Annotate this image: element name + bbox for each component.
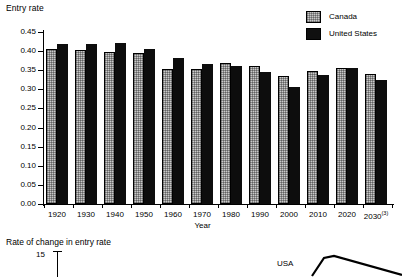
bar-united-states-2030 <box>376 80 387 204</box>
rate-of-change-title: Rate of change in entry rate <box>6 237 111 247</box>
y-tick-label: 0.35 <box>2 65 36 74</box>
bar-canada-2030 <box>365 74 376 204</box>
bar-canada-1980 <box>220 63 231 204</box>
plot-area <box>43 32 391 204</box>
rate-of-change-chart: Rate of change in entry rate 15 USA <box>0 235 405 277</box>
bar-united-states-1940 <box>115 43 126 204</box>
usa-series-label: USA <box>277 259 293 268</box>
usa-line-path <box>310 253 402 277</box>
y-tick-label: 0.30 <box>2 84 36 93</box>
bar-canada-1950 <box>133 53 144 204</box>
bar-united-states-1930 <box>86 44 97 204</box>
y-tick-label: 0.20 <box>2 123 36 132</box>
x-tick-label-2030: 2030(3) <box>356 210 396 221</box>
bar-canada-2000 <box>278 76 289 204</box>
bar-united-states-1990 <box>260 72 271 204</box>
bar-canada-2020 <box>336 68 347 204</box>
bar-united-states-1970 <box>202 64 213 204</box>
y-tick-label: 0.05 <box>2 180 36 189</box>
legend-item-canada: Canada <box>306 8 402 25</box>
x-axis-title: Year <box>0 221 405 230</box>
y-tick-label: 0.15 <box>2 142 36 151</box>
bar-canada-1960 <box>162 69 173 204</box>
bar-canada-1970 <box>191 69 202 204</box>
bar-united-states-2020 <box>347 68 358 204</box>
bar-canada-1930 <box>75 50 86 204</box>
x-tick-mark <box>247 204 248 208</box>
x-tick-mark <box>363 204 364 208</box>
bar-united-states-1960 <box>173 58 184 204</box>
x-tick-mark <box>73 204 74 208</box>
y-tick-label: 0.40 <box>2 46 36 55</box>
y-tick-label: 0.25 <box>2 103 36 112</box>
x-tick-mark <box>334 204 335 208</box>
y-tick-label: 0.10 <box>2 161 36 170</box>
bar-united-states-1980 <box>231 66 242 204</box>
rate-of-change-y-tick-label: 15 <box>36 250 45 259</box>
bar-united-states-1920 <box>57 44 68 204</box>
rate-of-change-y-axis <box>57 251 58 277</box>
x-tick-mark <box>160 204 161 208</box>
x-tick-mark <box>44 204 45 208</box>
x-tick-mark <box>276 204 277 208</box>
y-tick-label: 0.45 <box>2 27 36 36</box>
x-tick-mark <box>102 204 103 208</box>
x-tick-mark <box>189 204 190 208</box>
x-tick-mark <box>131 204 132 208</box>
bar-canada-1990 <box>249 66 260 204</box>
bar-canada-1940 <box>104 52 115 204</box>
legend-label-canada: Canada <box>329 12 357 21</box>
bar-united-states-2000 <box>289 87 300 204</box>
x-tick-mark <box>392 204 393 208</box>
bar-united-states-1950 <box>144 49 155 204</box>
entry-rate-bar-chart: Entry rate Canada United States 0.000.05… <box>0 0 405 235</box>
x-tick-mark <box>218 204 219 208</box>
y-tick-label: 0.00 <box>2 199 36 208</box>
x-tick-mark <box>305 204 306 208</box>
legend-swatch-canada-icon <box>306 11 321 23</box>
bar-canada-2010 <box>307 71 318 204</box>
bar-united-states-2010 <box>318 75 329 204</box>
entry-rate-axis-title: Entry rate <box>6 3 44 13</box>
chart-page: Entry rate Canada United States 0.000.05… <box>0 0 405 277</box>
bar-canada-1920 <box>46 49 57 204</box>
